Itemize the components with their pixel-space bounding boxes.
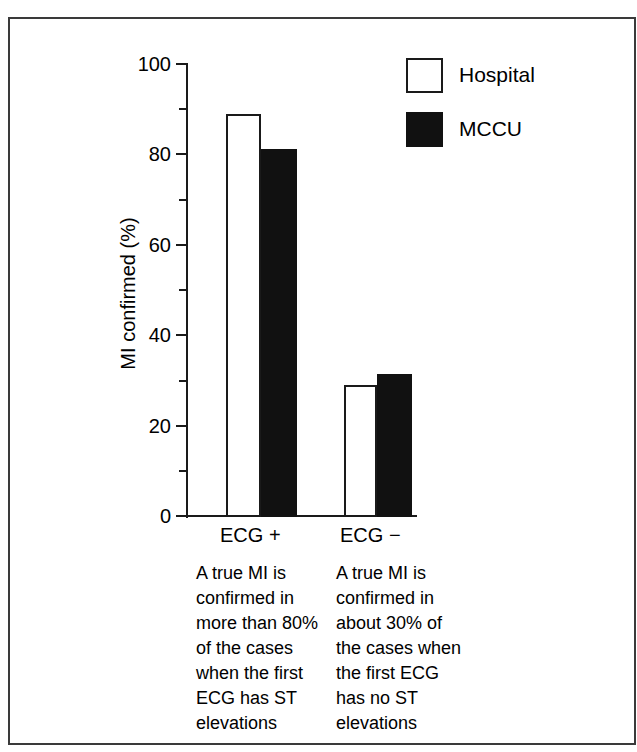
y-axis-tick-80 (176, 153, 187, 155)
caption-line: confirmed in (196, 586, 346, 611)
legend-item-mccu: MCCU (406, 110, 606, 148)
bar-mccu-ecg-plus (261, 149, 297, 517)
figure-page: 100 80 60 40 20 0 MI confirmed (%) Hospi… (0, 0, 637, 752)
y-axis-tick-100 (176, 63, 187, 65)
caption-line: more than 80% (196, 611, 346, 636)
y-axis-tick-label-0: 0 (111, 506, 171, 526)
legend-item-hospital: Hospital (406, 56, 606, 94)
legend: Hospital MCCU (406, 56, 606, 164)
bar-hospital-ecg-minus (344, 385, 377, 517)
y-axis-tick-20 (176, 425, 187, 427)
y-axis-minor-tick-30 (179, 380, 187, 382)
caption-line: ECG has ST (196, 686, 346, 711)
legend-label-hospital: Hospital (459, 63, 535, 87)
bar-mccu-ecg-minus (377, 374, 412, 517)
caption-line: about 30% of (336, 611, 486, 636)
y-axis-tick-label-80: 80 (111, 144, 171, 164)
caption-line: elevations (196, 711, 346, 736)
caption-line: the first ECG (336, 661, 486, 686)
y-axis-title: MI confirmed (%) (117, 164, 140, 424)
caption-line: the cases when (336, 636, 486, 661)
caption-ecg-minus: A true MI is confirmed in about 30% of t… (336, 561, 486, 736)
x-axis-category-label-ecg-plus: ECG + (220, 524, 281, 547)
y-axis-minor-tick-90 (179, 108, 187, 110)
caption-line: of the cases (196, 636, 346, 661)
legend-swatch-hospital (406, 58, 443, 93)
legend-label-mccu: MCCU (459, 117, 522, 141)
caption-line: when the first (196, 661, 346, 686)
caption-line: A true MI is (336, 561, 486, 586)
caption-line: has no ST (336, 686, 486, 711)
y-axis-minor-tick-50 (179, 289, 187, 291)
y-axis-tick-40 (176, 334, 187, 336)
caption-ecg-plus: A true MI is confirmed in more than 80% … (196, 561, 346, 736)
legend-swatch-mccu (406, 112, 443, 147)
bar-hospital-ecg-plus (226, 114, 261, 517)
caption-line: elevations (336, 711, 486, 736)
bar-chart-plot-area: 100 80 60 40 20 0 MI confirmed (%) Hospi… (0, 0, 637, 752)
caption-line: confirmed in (336, 586, 486, 611)
y-axis-minor-tick-10 (179, 470, 187, 472)
y-axis-minor-tick-70 (179, 199, 187, 201)
x-axis-category-label-ecg-minus: ECG − (340, 524, 401, 547)
y-axis-tick-60 (176, 244, 187, 246)
y-axis-tick-label-100: 100 (111, 54, 171, 74)
caption-line: A true MI is (196, 561, 346, 586)
